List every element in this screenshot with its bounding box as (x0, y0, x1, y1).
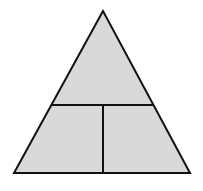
divided-triangle-diagram (0, 0, 203, 191)
